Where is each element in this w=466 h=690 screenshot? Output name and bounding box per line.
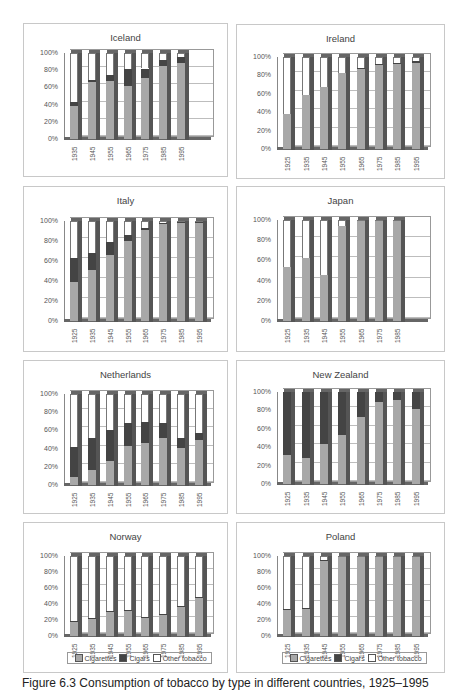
y-tick-label: 80% [28,66,58,73]
bar-depth [167,554,171,637]
bar-segment-cigars [159,423,167,438]
bar-segment-cigarettes [70,622,78,636]
bar-depth [365,218,369,322]
stacked-bar [375,220,383,321]
bar-segment-other-tobacco [159,53,167,60]
legend-swatch-icon [368,654,376,662]
bar-segment-other-tobacco [320,220,328,275]
stacked-bar [283,556,291,636]
bar-depth [346,390,350,485]
bar-depth [114,392,118,486]
bar-depth [310,218,314,322]
y-tick-label: 100% [241,53,271,60]
bar-segment-other-tobacco [106,556,114,611]
bar-segment-cigarettes [124,611,132,636]
chart-title: Poland [237,531,444,542]
bar-segment-cigarettes [141,78,149,139]
legend-label: Cigars [129,655,149,662]
x-tick-label: 1955 [125,493,132,507]
bar-segment-cigars [124,69,132,85]
bar-segment-cigarettes [320,561,328,636]
bar-segment-cigarettes [283,610,291,636]
bar-depth [132,219,136,322]
bar-segment-other-tobacco [106,53,114,75]
bar-segment-other-tobacco [88,556,96,618]
y-tick-label: 100% [241,552,271,559]
bar-segment-other-tobacco [70,53,78,102]
bar-segment-other-tobacco [88,53,96,80]
bar-segment-cigarettes [106,612,114,636]
bar-segment-cigarettes [124,241,132,321]
x-tick-label: 1975 [376,329,383,343]
y-tick-label: 40% [241,600,271,607]
bar-segment-cigars [106,75,114,81]
bar-segment-cigarettes [375,402,383,484]
bar-segment-cigarettes [195,223,203,321]
legend-label: Other tobacco [163,655,207,662]
bar-segment-other-tobacco [283,556,291,609]
plot-side-wall [64,556,65,636]
y-tick-label: 0% [28,481,58,488]
stacked-bar [88,53,96,139]
y-tick-label: 80% [241,568,271,575]
x-tick-label: 1985 [178,329,185,343]
bar-segment-cigarettes [338,226,346,321]
bar-depth [346,218,350,322]
bar-segment-cigars [320,392,328,444]
stacked-bar [357,57,365,149]
bar-depth [291,218,295,322]
bar-depth [383,218,387,322]
bar-segment-cigarettes [393,400,401,484]
stacked-bar [88,394,96,485]
bar-depth [328,390,332,485]
bar-segment-cigars [177,222,185,223]
x-tick-label: 1985 [394,329,401,343]
x-tick-label: 1945 [89,147,96,161]
x-tick-label: 1925 [284,157,291,171]
bar-segment-other-tobacco [124,53,132,69]
chart-title: Norway [24,531,227,542]
plot-side-wall [64,394,65,485]
bar-segment-cigarettes [88,270,96,321]
stacked-bar [393,220,401,321]
bar-segment-other-tobacco [141,394,149,422]
y-tick-label: 60% [241,584,271,591]
bar-segment-cigarettes [302,258,310,321]
x-tick-label: 1975 [376,157,383,171]
y-tick-label: 0% [28,317,58,324]
bar-depth [365,55,369,150]
bar-depth [310,390,314,485]
bar-segment-other-tobacco [338,57,346,73]
bar-segment-cigarettes [357,557,365,636]
bar-segment-cigarettes [70,477,78,485]
bar-segment-other-tobacco [375,556,383,557]
x-tick-label: 1935 [303,492,310,506]
bar-segment-other-tobacco [195,394,203,433]
bar-segment-cigarettes [375,557,383,636]
bar-segment-cigars [124,423,132,446]
y-tick-label: 40% [28,600,58,607]
bar-segment-cigarettes [357,221,365,321]
legend-swatch-icon [119,654,127,662]
bar-depth [291,554,295,637]
stacked-bar [338,556,346,636]
bar-segment-cigarettes [375,221,383,321]
bar-segment-other-tobacco [141,556,149,617]
y-tick-label: 100% [28,390,58,397]
bar-segment-cigarettes [88,618,96,636]
plot-side-wall [277,556,278,636]
bar-depth [346,55,350,150]
bar-depth [383,55,387,150]
y-tick-label: 40% [241,443,271,450]
bar-segment-cigarettes [177,448,185,485]
bar-segment-cigars [141,617,149,618]
bar-segment-cigarettes [141,618,149,636]
chart-title: Italy [24,195,227,206]
x-tick-label: 1925 [284,329,291,343]
bar-segment-other-tobacco [177,53,185,57]
bar-segment-cigarettes [357,69,365,149]
stacked-bar [338,392,346,484]
bar-depth [96,392,100,486]
bar-depth [185,51,189,140]
y-tick-label: 100% [28,217,58,224]
